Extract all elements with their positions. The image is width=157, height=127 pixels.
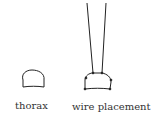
thorax-label: thorax [15,100,48,111]
wire-placement-label: wire placement [72,101,151,112]
thorax-outline [23,70,45,87]
wire-placement-outline [84,3,112,90]
